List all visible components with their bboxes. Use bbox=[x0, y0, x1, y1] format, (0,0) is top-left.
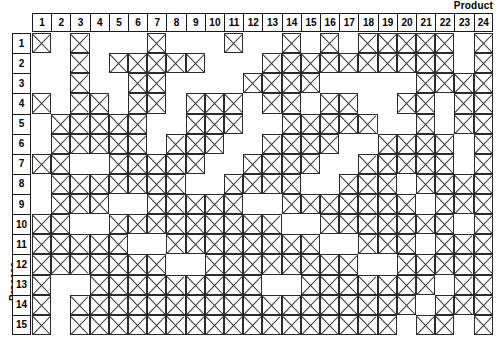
marked-cell-8-14[interactable] bbox=[282, 174, 301, 194]
marked-cell-1-21[interactable] bbox=[416, 33, 435, 53]
marked-cell-13-8[interactable] bbox=[166, 275, 185, 295]
marked-cell-4-7[interactable] bbox=[147, 93, 166, 113]
marked-cell-7-12[interactable] bbox=[243, 154, 262, 174]
marked-cell-10-10[interactable] bbox=[205, 214, 224, 234]
marked-cell-15-9[interactable] bbox=[186, 315, 205, 335]
marked-cell-14-9[interactable] bbox=[186, 295, 205, 315]
marked-cell-2-5[interactable] bbox=[109, 53, 128, 73]
marked-cell-9-10[interactable] bbox=[205, 194, 224, 214]
marked-cell-2-15[interactable] bbox=[301, 53, 320, 73]
marked-cell-9-11[interactable] bbox=[224, 194, 243, 214]
marked-cell-6-21[interactable] bbox=[416, 134, 435, 154]
row-header-1[interactable]: 1 bbox=[12, 33, 31, 53]
marked-cell-9-24[interactable] bbox=[474, 194, 493, 214]
marked-cell-12-10[interactable] bbox=[205, 254, 224, 274]
marked-cell-8-21[interactable] bbox=[416, 174, 435, 194]
marked-cell-15-13[interactable] bbox=[262, 315, 281, 335]
empty-cell-4-19[interactable] bbox=[378, 93, 397, 113]
marked-cell-7-13[interactable] bbox=[262, 154, 281, 174]
marked-cell-11-10[interactable] bbox=[205, 234, 224, 254]
marked-cell-9-20[interactable] bbox=[397, 194, 416, 214]
empty-cell-4-18[interactable] bbox=[358, 93, 377, 113]
marked-cell-5-10[interactable] bbox=[205, 114, 224, 134]
marked-cell-2-21[interactable] bbox=[416, 53, 435, 73]
marked-cell-13-5[interactable] bbox=[109, 275, 128, 295]
marked-cell-7-21[interactable] bbox=[416, 154, 435, 174]
marked-cell-4-4[interactable] bbox=[90, 93, 109, 113]
marked-cell-1-14[interactable] bbox=[282, 33, 301, 53]
marked-cell-14-18[interactable] bbox=[358, 295, 377, 315]
marked-cell-13-19[interactable] bbox=[378, 275, 397, 295]
marked-cell-8-12[interactable] bbox=[243, 174, 262, 194]
marked-cell-3-7[interactable] bbox=[147, 73, 166, 93]
marked-cell-4-6[interactable] bbox=[128, 93, 147, 113]
marked-cell-7-20[interactable] bbox=[397, 154, 416, 174]
marked-cell-7-19[interactable] bbox=[378, 154, 397, 174]
empty-cell-10-23[interactable] bbox=[454, 214, 473, 234]
column-header-15[interactable]: 15 bbox=[301, 13, 320, 32]
marked-cell-5-4[interactable] bbox=[90, 114, 109, 134]
marked-cell-4-9[interactable] bbox=[186, 93, 205, 113]
marked-cell-14-24[interactable] bbox=[474, 295, 493, 315]
empty-cell-3-2[interactable] bbox=[51, 73, 70, 93]
marked-cell-8-2[interactable] bbox=[51, 174, 70, 194]
empty-cell-3-1[interactable] bbox=[32, 73, 51, 93]
marked-cell-11-1[interactable] bbox=[32, 234, 51, 254]
marked-cell-10-21[interactable] bbox=[416, 214, 435, 234]
empty-cell-15-2[interactable] bbox=[51, 315, 70, 335]
column-header-10[interactable]: 10 bbox=[205, 13, 224, 32]
column-header-7[interactable]: 7 bbox=[147, 13, 166, 32]
marked-cell-9-18[interactable] bbox=[358, 194, 377, 214]
marked-cell-14-4[interactable] bbox=[90, 295, 109, 315]
marked-cell-6-6[interactable] bbox=[128, 134, 147, 154]
empty-cell-7-16[interactable] bbox=[320, 154, 339, 174]
marked-cell-12-16[interactable] bbox=[320, 254, 339, 274]
marked-cell-9-4[interactable] bbox=[90, 194, 109, 214]
empty-cell-11-16[interactable] bbox=[320, 234, 339, 254]
empty-cell-3-10[interactable] bbox=[205, 73, 224, 93]
empty-cell-6-1[interactable] bbox=[32, 134, 51, 154]
empty-cell-12-18[interactable] bbox=[358, 254, 377, 274]
column-header-11[interactable]: 11 bbox=[224, 13, 243, 32]
empty-cell-6-12[interactable] bbox=[243, 134, 262, 154]
marked-cell-5-6[interactable] bbox=[128, 114, 147, 134]
marked-cell-9-2[interactable] bbox=[51, 194, 70, 214]
marked-cell-14-15[interactable] bbox=[301, 295, 320, 315]
marked-cell-12-17[interactable] bbox=[339, 254, 358, 274]
empty-cell-13-13[interactable] bbox=[262, 275, 281, 295]
marked-cell-13-24[interactable] bbox=[474, 275, 493, 295]
row-header-13[interactable]: 13 bbox=[12, 275, 31, 295]
empty-cell-9-12[interactable] bbox=[243, 194, 262, 214]
marked-cell-11-2[interactable] bbox=[51, 234, 70, 254]
empty-cell-5-12[interactable] bbox=[243, 114, 262, 134]
empty-cell-2-23[interactable] bbox=[454, 53, 473, 73]
marked-cell-3-22[interactable] bbox=[435, 73, 454, 93]
empty-cell-4-22[interactable] bbox=[435, 93, 454, 113]
marked-cell-1-16[interactable] bbox=[320, 33, 339, 53]
marked-cell-8-7[interactable] bbox=[147, 174, 166, 194]
marked-cell-1-18[interactable] bbox=[358, 33, 377, 53]
marked-cell-2-6[interactable] bbox=[128, 53, 147, 73]
column-header-23[interactable]: 23 bbox=[454, 13, 473, 32]
marked-cell-1-3[interactable] bbox=[70, 33, 89, 53]
marked-cell-3-12[interactable] bbox=[243, 73, 262, 93]
marked-cell-15-6[interactable] bbox=[128, 315, 147, 335]
marked-cell-10-2[interactable] bbox=[51, 214, 70, 234]
empty-cell-5-1[interactable] bbox=[32, 114, 51, 134]
marked-cell-13-9[interactable] bbox=[186, 275, 205, 295]
marked-cell-12-24[interactable] bbox=[474, 254, 493, 274]
marked-cell-12-3[interactable] bbox=[70, 254, 89, 274]
empty-cell-1-13[interactable] bbox=[262, 33, 281, 53]
empty-cell-3-16[interactable] bbox=[320, 73, 339, 93]
marked-cell-5-23[interactable] bbox=[454, 114, 473, 134]
marked-cell-14-23[interactable] bbox=[454, 295, 473, 315]
marked-cell-10-6[interactable] bbox=[128, 214, 147, 234]
marked-cell-14-16[interactable] bbox=[320, 295, 339, 315]
empty-cell-8-10[interactable] bbox=[205, 174, 224, 194]
row-header-6[interactable]: 6 bbox=[12, 134, 31, 154]
marked-cell-1-7[interactable] bbox=[147, 33, 166, 53]
column-header-19[interactable]: 19 bbox=[378, 13, 397, 32]
marked-cell-14-6[interactable] bbox=[128, 295, 147, 315]
marked-cell-2-20[interactable] bbox=[397, 53, 416, 73]
marked-cell-13-12[interactable] bbox=[243, 275, 262, 295]
